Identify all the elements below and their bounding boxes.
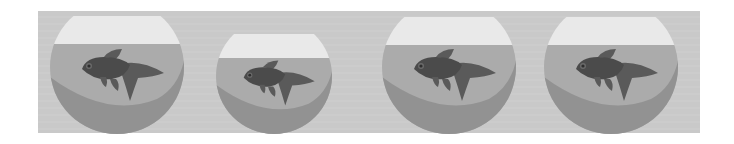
bowl-air	[50, 16, 184, 44]
fishbowl	[216, 34, 334, 136]
fishbowl-illustration	[0, 0, 734, 144]
bowls-layer	[0, 0, 734, 144]
fishbowl	[544, 17, 680, 136]
bowl-air	[544, 17, 678, 45]
fishbowl	[382, 17, 518, 136]
bowl-air	[382, 17, 516, 45]
bowl-air	[216, 34, 332, 58]
fishbowl	[50, 16, 186, 136]
